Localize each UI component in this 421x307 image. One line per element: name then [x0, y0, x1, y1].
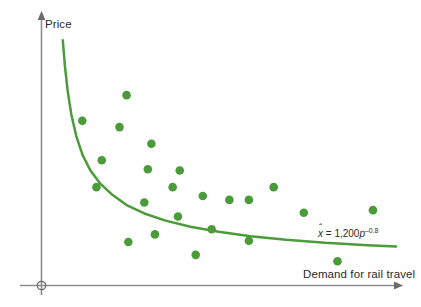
fitted-curve: [63, 40, 396, 246]
scatter-point: [122, 91, 131, 100]
equation-hat: ˆ: [318, 222, 323, 232]
chart-canvas: [0, 0, 421, 307]
scatter-point: [199, 192, 208, 201]
scatter-point: [245, 236, 254, 245]
scatter-point: [97, 156, 106, 165]
equation-exponent: –0.8: [365, 227, 378, 234]
x-axis-label: Demand for rail travel: [303, 268, 415, 280]
scatter-point: [92, 183, 101, 192]
scatter-point: [369, 206, 378, 215]
scatter-point: [300, 208, 309, 217]
scatter-point: [175, 166, 184, 175]
scatter-point: [144, 165, 153, 174]
scatter-points: [78, 91, 377, 266]
scatter-point: [124, 238, 133, 247]
scatter-point: [174, 212, 183, 221]
scatter-point: [191, 251, 200, 260]
equation-equals: =: [326, 228, 332, 239]
x-axis-arrow-icon: [394, 282, 403, 290]
scatter-point: [78, 116, 87, 125]
scatter-point: [115, 123, 124, 132]
equation-coefficient: 1,200: [334, 228, 359, 239]
scatter-point: [269, 183, 278, 192]
scatter-point: [151, 230, 160, 239]
equation-variable: ˆx: [318, 228, 323, 239]
y-axis-label: Price: [45, 18, 72, 30]
demand-curve-figure: Price Demand for rail travel ˆx = 1,200p…: [0, 0, 421, 307]
scatter-point: [168, 183, 177, 192]
scatter-point: [140, 198, 149, 207]
scatter-point: [245, 196, 254, 205]
scatter-point: [207, 225, 216, 234]
scatter-point: [333, 257, 342, 266]
scatter-point: [225, 196, 234, 205]
scatter-point: [147, 139, 156, 148]
equation-annotation: ˆx = 1,200p–0.8: [318, 228, 378, 239]
